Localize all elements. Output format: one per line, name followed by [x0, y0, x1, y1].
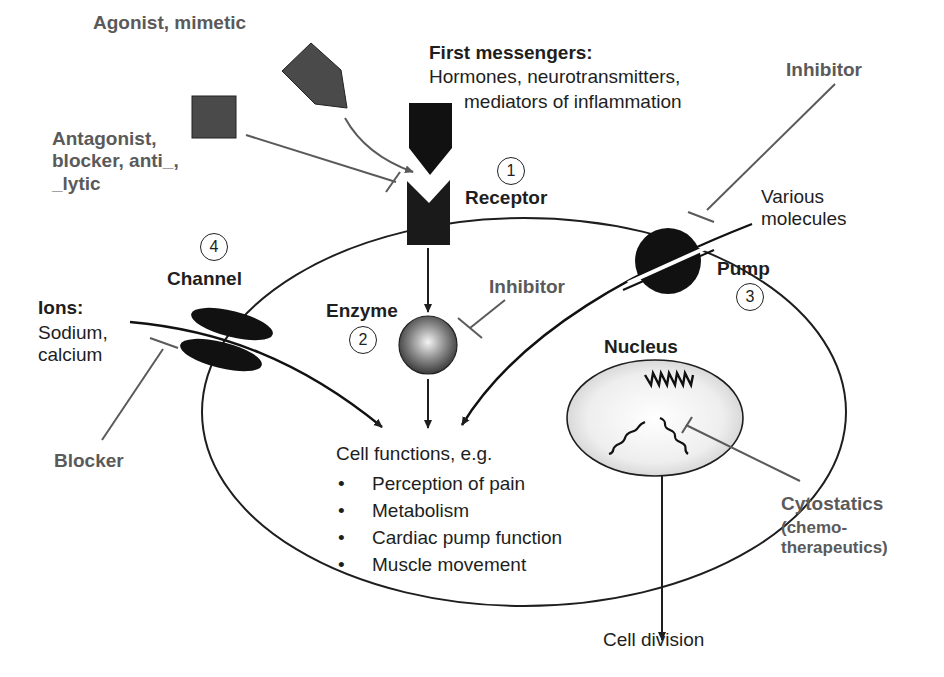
enzyme-inhibitor-label: Inhibitor [489, 276, 565, 298]
target-number-enzyme: 2 [349, 326, 377, 354]
pump-label: Pump [717, 258, 770, 280]
ions-list: Sodium, calcium [38, 322, 108, 367]
blocker-bar [150, 338, 178, 348]
various-molecules-line-1: Various [761, 186, 847, 208]
cell-functions-title: Cell functions, e.g. [336, 443, 492, 465]
cell-function-item: Cardiac pump function [336, 524, 562, 551]
antagonist-bar [386, 172, 400, 192]
ions-calcium: calcium [38, 344, 108, 366]
first-messengers-title: First messengers: [429, 42, 593, 64]
receptor-label: Receptor [465, 187, 547, 209]
channel-label: Channel [167, 268, 242, 290]
antagonist-label: Antagonist, blocker, anti_, _lytic [52, 128, 179, 195]
first-messengers-line-1: Hormones, neurotransmitters, [429, 66, 680, 88]
agonist-label: Agonist, mimetic [93, 12, 246, 34]
cell-function-item: Muscle movement [336, 551, 562, 578]
antagonist-line-3: _lytic [52, 173, 179, 195]
enzyme-inhibitor-line [470, 300, 505, 328]
target-number-receptor: 1 [497, 157, 525, 185]
cytostatics-sub-line-1: (chemo- [781, 518, 888, 538]
first-messengers-line-2: mediators of inflammation [464, 91, 682, 113]
various-molecules-label: Various molecules [761, 186, 847, 231]
agonist-ligand-icon [282, 43, 347, 108]
antagonist-ligand-icon [192, 96, 236, 138]
first-messenger-icon [409, 103, 452, 175]
target-number-channel: 4 [200, 233, 228, 261]
various-molecules-line-2: molecules [761, 208, 847, 230]
nucleus-label: Nucleus [604, 336, 678, 358]
pump-inhibitor-label: Inhibitor [786, 59, 862, 81]
cytostatics-title: Cytostatics [781, 493, 883, 515]
cell-division-label: Cell division [603, 629, 704, 651]
target-number-pump: 3 [736, 283, 764, 311]
ions-title: Ions: [38, 297, 83, 319]
agonist-arrow [345, 118, 413, 172]
cytostatics-sub-line-2: therapeutics) [781, 538, 888, 558]
blocker-line [102, 349, 163, 440]
antagonist-line [246, 135, 396, 182]
receptor-icon [407, 180, 450, 245]
enzyme-icon [399, 316, 457, 374]
pump-inhibitor-bar [688, 212, 714, 222]
blocker-label: Blocker [54, 450, 124, 472]
cell-function-item: Perception of pain [336, 470, 562, 497]
cytostatics-subtitle: (chemo- therapeutics) [781, 518, 888, 558]
antagonist-line-1: Antagonist, [52, 128, 179, 150]
antagonist-line-2: blocker, anti_, [52, 150, 179, 172]
cell-functions-list: Perception of pain Metabolism Cardiac pu… [336, 470, 562, 578]
ions-sodium: Sodium, [38, 322, 108, 344]
enzyme-label: Enzyme [326, 300, 398, 322]
cell-function-item: Metabolism [336, 497, 562, 524]
